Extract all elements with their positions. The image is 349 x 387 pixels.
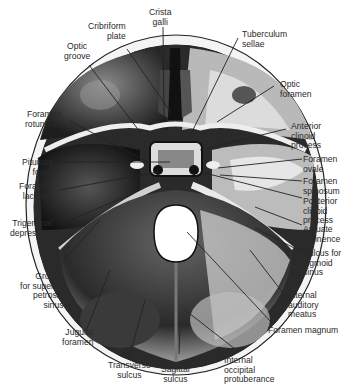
label-foramen-ovale: Foramen ovale <box>303 155 337 174</box>
label-arcuate-eminence: Arcuate eminence <box>303 225 340 244</box>
label-sagittal-sulcus: Sagittal sulcus <box>161 365 190 384</box>
label-internal-auditory-meatus: Internal auditory meatus <box>288 291 319 320</box>
label-sulcus-sigmoid-sinus: Sulcus for sigmoid sinus <box>303 249 341 278</box>
label-anterior-clinoid-process: Anterior clinoid process <box>291 122 321 151</box>
crista-galli <box>168 48 182 120</box>
label-foramen-lacerum: Foramen lacerum <box>19 182 53 201</box>
label-transverse-sulcus: Transverse sulcus <box>108 361 151 380</box>
label-cribriform-plate: Cribriform plate <box>88 22 126 41</box>
label-jugular-foramen: Jugular foramen <box>62 328 94 347</box>
label-foramen-magnum: Foramen magnum <box>268 326 338 336</box>
label-trigeminal-depression: Trigeminal depression <box>10 219 52 238</box>
foramen-magnum <box>154 205 198 262</box>
label-foramen-rotundum: Foramen rotundum <box>25 110 61 129</box>
label-internal-occipital-protuberance: Internal occipital protuberance <box>224 356 275 385</box>
label-crista-galli: Crista galli <box>149 8 171 27</box>
label-optic-groove: Optic groove <box>64 42 90 61</box>
label-foramen-spinosum: Foramen spinosum <box>303 177 340 196</box>
label-optic-foramen: Optic foramen <box>280 80 312 99</box>
label-posterior-clinoid-process: Posterior clinoid process <box>303 197 337 226</box>
label-groove-superior-petrosal-sinus: Groove for superior petrosal sinus <box>20 272 63 310</box>
cranial-base-diagram: Crista galli Cribriform plate Tuberculum… <box>0 0 349 387</box>
label-pituitary-fossa: Pituitary fossa <box>22 158 53 177</box>
label-tuberculum-sellae: Tuberculum sellae <box>242 30 287 49</box>
